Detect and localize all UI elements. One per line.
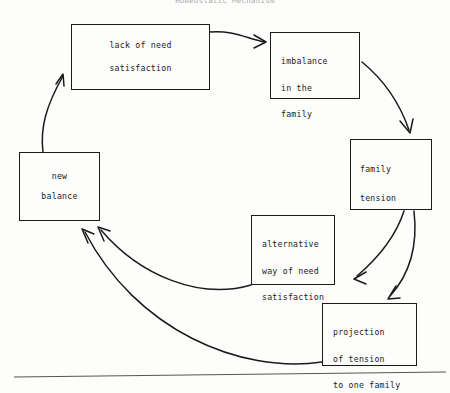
node-lack-line-2: satisfaction bbox=[109, 62, 171, 75]
node-new-balance: new balance bbox=[19, 152, 100, 221]
node-alternative-way-of-need-satisfaction: alternative way of need satisfaction bbox=[251, 215, 335, 285]
node-family-tension: family tension bbox=[350, 139, 432, 210]
node-projection-line-3: to one family bbox=[333, 379, 416, 392]
edge-alternative-to-new-balance bbox=[98, 227, 251, 289]
diagram-page: Homeostatic Mechanism .arrow-path { fill… bbox=[0, 0, 450, 393]
node-alternative-line-1: alternative bbox=[262, 238, 334, 251]
node-lack-of-need-satisfaction: lack of need satisfaction bbox=[71, 24, 210, 90]
node-new-balance-line-2: balance bbox=[41, 190, 77, 203]
node-new-balance-line-1: new bbox=[52, 170, 68, 183]
node-imbalance-line-3: family bbox=[281, 108, 359, 121]
edge-new-balance-to-lack bbox=[42, 74, 64, 152]
node-projection-line-1: projection bbox=[333, 326, 416, 339]
edge-lack-to-imbalance bbox=[210, 32, 266, 48]
node-projection-of-tension: projection of tension to one family memb… bbox=[322, 303, 417, 366]
edge-family-tension-to-projection bbox=[388, 211, 415, 299]
node-alternative-line-2: way of need bbox=[262, 265, 334, 278]
node-family-tension-line-2: tension bbox=[360, 192, 431, 205]
node-imbalance-in-the-family: imbalance in the family bbox=[270, 32, 360, 99]
node-family-tension-line-1: family bbox=[360, 163, 431, 176]
page-title: Homeostatic Mechanism bbox=[0, 0, 450, 4]
edge-imbalance-to-family-tension bbox=[362, 62, 413, 133]
edge-family-tension-to-alternative bbox=[354, 211, 404, 284]
node-projection-line-2: of tension bbox=[333, 353, 416, 366]
node-imbalance-line-1: imbalance bbox=[281, 55, 359, 68]
node-lack-line-1: lack of need bbox=[109, 39, 171, 52]
node-imbalance-line-2: in the bbox=[281, 82, 359, 95]
